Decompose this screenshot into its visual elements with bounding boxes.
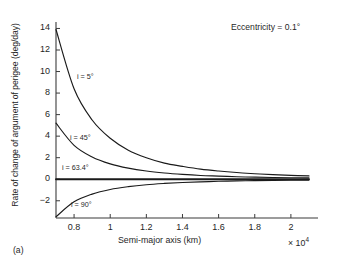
y-tick-label: 8 — [28, 87, 50, 97]
axes-lines — [56, 22, 318, 218]
curve-90 — [56, 180, 309, 217]
y-tick-label: 2 — [28, 152, 50, 162]
x-tick-label: 1 — [95, 222, 125, 232]
x-tick-label: 1.6 — [204, 222, 234, 232]
x-tick-label: 1.2 — [131, 222, 161, 232]
x-multiplier-prefix: × 10 — [288, 238, 305, 248]
x-multiplier-exponent: 4 — [305, 236, 309, 243]
eccentricity-annotation: Eccentricity = 0.1° — [231, 22, 300, 32]
data-curves — [56, 30, 309, 217]
y-tick-label: 6 — [28, 109, 50, 119]
y-axis-label: Rate of change of argument of perigee (d… — [10, 10, 20, 220]
curve-label-i634: i = 63.4° — [62, 163, 89, 172]
curve-label-i5: i = 5° — [77, 72, 94, 81]
y-tick-label: 4 — [28, 130, 50, 140]
curve-label-i45: i = 45° — [70, 133, 91, 142]
curve-45 — [56, 123, 309, 178]
x-tick-label: 1.4 — [167, 222, 197, 232]
y-tick-label: −2 — [28, 195, 50, 205]
curve-5 — [56, 30, 309, 176]
y-tick-label: 14 — [28, 22, 50, 32]
y-tick-label: 10 — [28, 66, 50, 76]
figure-panel-a: Rate of change of argument of perigee (d… — [0, 0, 339, 272]
x-axis-label: Semi-major axis (km) — [118, 235, 201, 245]
x-tick-label: 2 — [276, 222, 306, 232]
x-tick-label: 1.8 — [240, 222, 270, 232]
panel-label: (a) — [13, 245, 24, 255]
y-tick-label: 0 — [28, 173, 50, 183]
y-tick-label: 12 — [28, 44, 50, 54]
x-axis-multiplier: × 104 — [288, 236, 309, 248]
x-tick-label: 0.8 — [59, 222, 89, 232]
y-tick-marks — [56, 28, 60, 200]
x-tick-marks — [74, 214, 291, 218]
curve-label-i90: i = 90° — [71, 200, 92, 209]
